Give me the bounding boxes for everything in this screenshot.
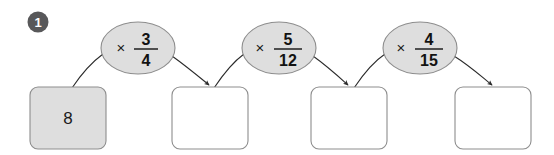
operation-bubble-1: × 3 4 <box>101 22 175 74</box>
operation-2-denominator: 12 <box>279 52 297 69</box>
connector-op1-to-box2 <box>172 56 209 85</box>
multiplication-chain-diagram: 1 8 × 3 4 <box>0 0 554 155</box>
node-box-2[interactable] <box>172 87 248 149</box>
connector-op3-to-box4 <box>454 56 492 85</box>
node-box-1-value: 8 <box>63 109 72 128</box>
operation-1-numerator: 3 <box>142 31 151 48</box>
question-number-label: 1 <box>34 15 41 30</box>
node-box-3[interactable] <box>311 87 387 149</box>
operation-3-numerator: 4 <box>425 31 434 48</box>
operation-3-denominator: 15 <box>420 52 438 69</box>
operation-bubble-2: × 5 12 <box>242 22 316 74</box>
operation-2-numerator: 5 <box>284 31 293 48</box>
connector-op2-to-box3 <box>313 56 348 85</box>
connector-box3-to-op3 <box>354 54 385 88</box>
question-number-badge: 1 <box>28 12 49 33</box>
node-box-1[interactable]: 8 <box>30 87 106 149</box>
connector-box1-to-op1 <box>72 54 103 88</box>
node-box-4[interactable] <box>455 87 531 149</box>
operation-1-operator: × <box>117 39 126 56</box>
operation-2-operator: × <box>256 39 265 56</box>
operation-1-denominator: 4 <box>142 52 151 69</box>
connector-box2-to-op2 <box>214 54 244 88</box>
operation-3-operator: × <box>397 39 406 56</box>
operation-bubble-3: × 4 15 <box>383 22 457 74</box>
worksheet-canvas: 1 8 × 3 4 <box>0 0 554 155</box>
